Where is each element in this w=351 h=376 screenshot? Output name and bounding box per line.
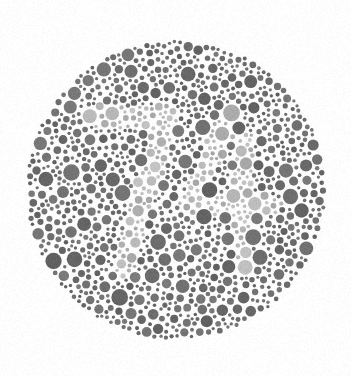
ishihara-plate-container: Ishihara Color Vision Test Plate (0, 0, 351, 376)
ishihara-plate-canvas (0, 0, 351, 376)
